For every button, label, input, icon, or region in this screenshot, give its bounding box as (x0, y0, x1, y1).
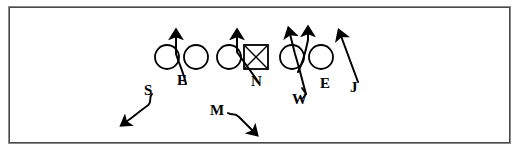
path-weak-linebacker (290, 34, 306, 94)
defender-label-defensive-end-left: E (177, 73, 187, 88)
path-jack-linebacker (341, 36, 358, 82)
offense-circle (309, 45, 333, 69)
defender-label-mike-linebacker: M (210, 103, 224, 118)
path-strong-safety (126, 94, 152, 122)
defender-label-weak-linebacker: W (292, 92, 307, 107)
defender-label-nose-tackle: N (251, 74, 262, 89)
defender-label-strong-safety: S (144, 83, 152, 98)
path-mike-linebacker (228, 113, 253, 131)
offense-circle (184, 45, 208, 69)
defender-label-defensive-end-right: E (320, 76, 330, 91)
defender-label-jack-linebacker: J (350, 80, 358, 95)
play-diagram: S E M N W E J (0, 0, 519, 151)
